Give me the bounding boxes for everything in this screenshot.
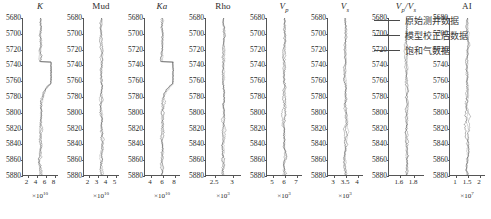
depth-tick-label: 5820	[433, 125, 448, 133]
track-title-mud: Mud	[83, 1, 119, 11]
depth-tick-label: 5880	[250, 172, 265, 180]
depth-tick-label: 5740	[311, 62, 326, 70]
track-title-k: K	[22, 1, 58, 11]
depth-tick-label: 5840	[433, 141, 448, 149]
value-axis-labels: 468	[144, 179, 180, 189]
depth-tick-label: 5860	[372, 156, 387, 164]
value-tick-label: 7	[294, 179, 298, 186]
log-curve	[39, 18, 52, 175]
depth-tick-label: 5820	[128, 125, 143, 133]
depth-tick-mark	[326, 113, 329, 114]
depth-tick-label: 5720	[311, 46, 326, 54]
axis-exponent-label: ×103	[277, 190, 290, 200]
depth-tick-label: 5820	[6, 125, 21, 133]
log-track-mud: Mud5680570057205740576057805800582058405…	[61, 0, 119, 219]
log-curves	[145, 18, 180, 175]
depth-tick-mark	[143, 160, 146, 161]
value-tick-label: 6	[43, 179, 47, 186]
depth-tick-mark	[21, 50, 24, 51]
log-curves	[23, 18, 58, 175]
depth-tick-mark	[448, 160, 451, 161]
depth-tick-mark	[448, 81, 451, 82]
track-title-ai: AI	[449, 1, 485, 11]
depth-tick-mark	[387, 81, 390, 82]
depth-tick-mark	[204, 50, 207, 51]
depth-tick-label: 5740	[250, 62, 265, 70]
track-plot-area	[22, 18, 58, 176]
depth-tick-mark	[265, 34, 268, 35]
value-tick-label: 8	[52, 179, 56, 186]
depth-axis-labels: 5680570057205740576057805800582058405860…	[183, 18, 205, 176]
depth-tick-mark	[326, 18, 329, 19]
value-tick-label: 2	[25, 179, 29, 186]
legend: 原始测井数据 模型校正后数据 饱和气数据	[374, 13, 491, 58]
depth-tick-mark	[21, 81, 24, 82]
value-axis-labels: 2345	[83, 179, 119, 189]
depth-tick-label: 5700	[128, 30, 143, 38]
track-plot-area	[205, 18, 241, 176]
depth-tick-mark	[204, 81, 207, 82]
log-track-vp: Vp56805700572057405760578058005820584058…	[244, 0, 302, 219]
value-tick-label: 3.5	[341, 179, 350, 186]
depth-tick-label: 5780	[372, 93, 387, 101]
depth-tick-label: 5800	[128, 109, 143, 117]
depth-tick-mark	[326, 97, 329, 98]
track-title-vs: Vs	[327, 1, 363, 13]
depth-tick-mark	[387, 160, 390, 161]
depth-tick-mark	[265, 97, 268, 98]
depth-tick-label: 5820	[250, 125, 265, 133]
depth-tick-label: 5820	[189, 125, 204, 133]
depth-tick-mark	[387, 129, 390, 130]
depth-tick-label: 5740	[433, 62, 448, 70]
depth-tick-mark	[143, 176, 146, 177]
depth-tick-mark	[21, 129, 24, 130]
depth-tick-mark	[265, 129, 268, 130]
depth-tick-mark	[265, 176, 268, 177]
depth-tick-label: 5780	[128, 93, 143, 101]
depth-tick-mark	[143, 34, 146, 35]
depth-tick-label: 5780	[67, 93, 82, 101]
depth-tick-mark	[21, 113, 24, 114]
depth-tick-mark	[82, 176, 85, 177]
depth-tick-mark	[204, 129, 207, 130]
value-axis-labels: 2.53	[205, 179, 241, 189]
depth-tick-label: 5760	[250, 77, 265, 85]
log-curves	[328, 18, 363, 175]
value-tick-label: 2	[86, 179, 90, 186]
depth-axis-labels: 5680570057205740576057805800582058405860…	[122, 18, 144, 176]
depth-tick-mark	[204, 34, 207, 35]
log-curve	[39, 18, 52, 175]
depth-tick-label: 5680	[250, 14, 265, 22]
depth-tick-label: 5700	[250, 30, 265, 38]
depth-tick-label: 5800	[311, 109, 326, 117]
depth-tick-label: 5740	[189, 62, 204, 70]
depth-tick-label: 5880	[189, 172, 204, 180]
depth-tick-mark	[387, 65, 390, 66]
depth-tick-label: 5720	[67, 46, 82, 54]
depth-tick-label: 5860	[433, 156, 448, 164]
depth-tick-label: 5880	[67, 172, 82, 180]
depth-tick-mark	[143, 81, 146, 82]
depth-tick-label: 5760	[128, 77, 143, 85]
depth-tick-mark	[204, 18, 207, 19]
depth-tick-label: 5840	[189, 141, 204, 149]
depth-tick-mark	[82, 50, 85, 51]
depth-tick-mark	[448, 65, 451, 66]
depth-tick-label: 5800	[372, 109, 387, 117]
depth-tick-mark	[448, 97, 451, 98]
value-tick-label: 4	[34, 179, 38, 186]
track-title-vp: Vp	[266, 1, 302, 13]
depth-tick-label: 5760	[311, 77, 326, 85]
value-tick-label: 1.5	[463, 179, 472, 186]
log-track-rho: Rho5680570057205740576057805800582058405…	[183, 0, 241, 219]
depth-tick-mark	[265, 160, 268, 161]
depth-tick-label: 5740	[372, 62, 387, 70]
depth-tick-label: 5840	[6, 141, 21, 149]
depth-tick-label: 5700	[311, 30, 326, 38]
track-title-rho: Rho	[205, 1, 241, 11]
value-axis-labels: 33.54	[327, 179, 363, 189]
depth-tick-mark	[204, 113, 207, 114]
track-plot-area	[83, 18, 119, 176]
depth-tick-mark	[82, 160, 85, 161]
track-plot-area	[144, 18, 180, 176]
